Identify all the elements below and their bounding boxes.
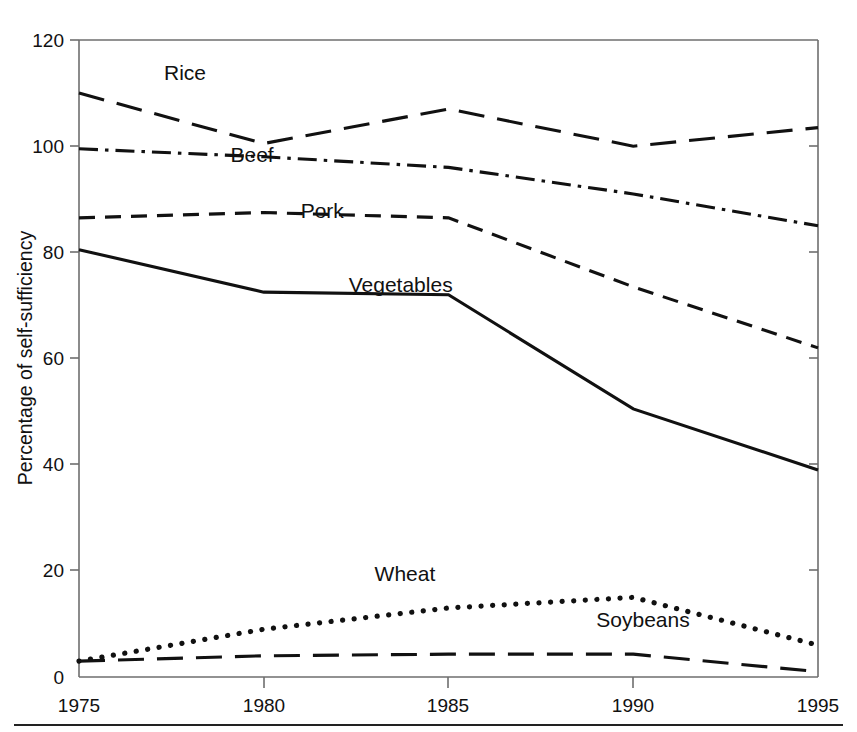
series-label-pork: Pork <box>301 199 345 222</box>
y-tick-label-100: 100 <box>32 136 64 157</box>
x-tick-label-1995: 1995 <box>797 695 839 716</box>
series-label-soybeans: Soybeans <box>596 608 689 631</box>
chart-container: 120 100 80 60 40 20 0 1975 1980 1985 199… <box>0 0 857 732</box>
y-tick-label-0: 0 <box>53 667 64 688</box>
x-axis-tick-labels: 1975 1980 1985 1990 1995 <box>58 695 839 716</box>
series-line-soybeans <box>79 654 818 672</box>
y-axis-tick-labels: 120 100 80 60 40 20 0 <box>32 30 64 688</box>
y-tick-label-120: 120 <box>32 30 64 51</box>
y-tick-label-80: 80 <box>43 242 64 263</box>
x-tick-label-1985: 1985 <box>427 695 469 716</box>
y-axis-ticks <box>70 40 818 570</box>
series-group <box>79 93 818 672</box>
series-label-wheat: Wheat <box>375 562 436 585</box>
x-tick-label-1990: 1990 <box>612 695 654 716</box>
series-line-wheat <box>79 597 818 661</box>
y-tick-label-40: 40 <box>43 454 64 475</box>
series-labels: Rice Beef Pork Vegetables Wheat Soybeans <box>164 61 690 631</box>
y-axis-title: Percentage of self-sufficiency <box>14 231 36 486</box>
series-label-vegetables: Vegetables <box>349 273 453 296</box>
x-axis-ticks <box>264 677 633 688</box>
self-sufficiency-line-chart: 120 100 80 60 40 20 0 1975 1980 1985 199… <box>0 0 857 732</box>
x-tick-label-1980: 1980 <box>243 695 285 716</box>
y-tick-label-20: 20 <box>43 560 64 581</box>
y-tick-label-60: 60 <box>43 348 64 369</box>
x-tick-label-1975: 1975 <box>58 695 100 716</box>
series-line-rice <box>79 93 818 146</box>
series-label-rice: Rice <box>164 61 206 84</box>
plot-frame <box>79 40 818 677</box>
series-label-beef: Beef <box>230 143 273 166</box>
